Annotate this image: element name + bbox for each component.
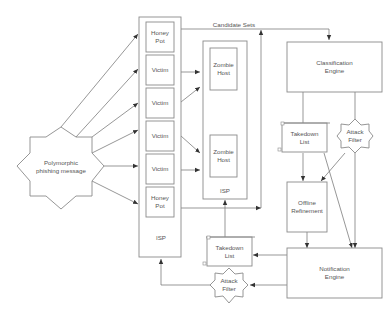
honeypot-top-line2: Pot xyxy=(155,37,165,44)
node-zombie-1: Zombie Host xyxy=(210,48,237,90)
notification-line2: Engine xyxy=(325,273,345,280)
victim-2-label: Victim xyxy=(152,99,169,106)
isp-mid-label: ISP xyxy=(220,187,230,194)
classification-line2: Engine xyxy=(325,67,345,74)
edge-phishing-victim1 xyxy=(76,69,138,137)
node-victim-2: Victim xyxy=(146,88,174,118)
zombie-2-line1: Zombie xyxy=(213,148,234,155)
node-takedown-list-lower: Takedown List xyxy=(203,236,255,266)
honeypot-top-line1: Honey xyxy=(151,29,170,36)
phishing-label-line1: Polymorphic xyxy=(44,159,78,166)
edge-victim2-zombie1 xyxy=(181,87,200,102)
phishing-label-line2: phishing message xyxy=(36,167,86,174)
node-victim-4: Victim xyxy=(146,154,174,184)
candidate-sets-label: Candidate Sets xyxy=(213,21,255,28)
phishing-defense-diagram: Polymorphic phishing message ISP Honey P… xyxy=(0,0,392,318)
victim-1-label: Victim xyxy=(152,66,169,73)
classification-line1: Classification xyxy=(316,59,353,66)
node-zombie-2: Zombie Host xyxy=(210,135,237,177)
takedown-lower-line2: List xyxy=(225,252,235,259)
attack-filter-lower-line1: Attack xyxy=(220,277,238,284)
node-offline-refinement: Offline Refinement xyxy=(287,182,327,232)
edge-attackfilter-offline xyxy=(321,153,345,181)
zombie-1-line2: Host xyxy=(217,69,230,76)
victim-4-label: Victim xyxy=(152,165,169,172)
edge-phishing-honeypot-top xyxy=(61,34,138,127)
edge-takedown-notification xyxy=(324,153,352,248)
node-victim-3: Victim xyxy=(146,121,174,151)
edge-honeypot-top-classification xyxy=(173,29,329,40)
edge-phishing-victim3 xyxy=(92,130,138,153)
notification-line1: Notification xyxy=(319,265,350,272)
isp-left-label: ISP xyxy=(156,234,166,241)
node-honeypot-top: Honey Pot xyxy=(146,22,174,52)
offline-line1: Offline xyxy=(298,199,316,206)
node-honeypot-bottom: Honey Pot xyxy=(146,187,174,217)
victim-3-label: Victim xyxy=(152,132,169,139)
zombie-1-line1: Zombie xyxy=(213,61,234,68)
node-victim-1: Victim xyxy=(146,55,174,85)
honeypot-bottom-line1: Honey xyxy=(151,194,170,201)
attack-filter-upper-line1: Attack xyxy=(346,128,364,135)
honeypot-bottom-line2: Pot xyxy=(155,202,165,209)
edge-victim3-zombie2 xyxy=(181,136,200,153)
node-phishing-message: Polymorphic phishing message xyxy=(17,127,104,209)
takedown-upper-line1: Takedown xyxy=(291,130,319,137)
attack-filter-upper-line2: Filter xyxy=(348,136,362,143)
node-takedown-list-upper: Takedown List xyxy=(278,122,330,152)
attack-filter-lower-line2: Filter xyxy=(222,285,236,292)
offline-line2: Refinement xyxy=(291,207,323,214)
node-classification-engine: Classification Engine xyxy=(287,42,382,92)
zombie-2-line2: Host xyxy=(217,156,230,163)
node-notification-engine: Notification Engine xyxy=(287,248,382,298)
node-attack-filter-upper: Attack Filter xyxy=(337,119,373,153)
node-attack-filter-lower: Attack Filter xyxy=(210,268,248,303)
takedown-upper-line2: List xyxy=(300,138,310,145)
edge-phishing-honeypot-bottom xyxy=(92,181,138,204)
edge-phishing-victim2 xyxy=(92,103,138,137)
takedown-lower-line1: Takedown xyxy=(216,244,244,251)
